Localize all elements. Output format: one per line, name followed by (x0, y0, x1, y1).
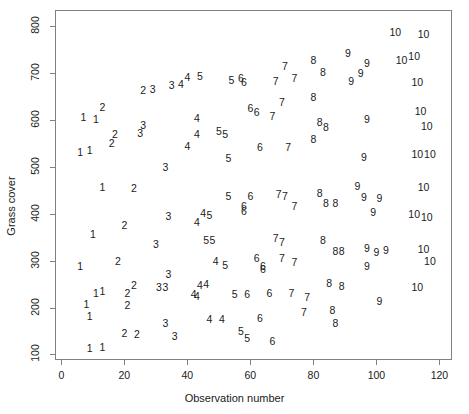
data-point-group-5-12: 5 (244, 333, 250, 344)
data-point-group-4-13: 4 (219, 314, 225, 325)
data-point-group-7-6: 7 (276, 188, 282, 199)
data-point-group-10-1: 10 (418, 29, 430, 40)
y-tick-label-text-0: 100 (29, 341, 41, 365)
data-point-group-3-11: 3 (172, 330, 178, 341)
y-tick-label-text-4: 500 (29, 154, 41, 178)
data-point-group-7-3: 7 (279, 97, 285, 108)
y-tick-label-text-5: 600 (29, 107, 41, 131)
x-tick-label-5: 100 (368, 369, 386, 381)
data-point-group-6-2: 6 (254, 107, 260, 118)
data-point-group-4-8: 4 (197, 280, 203, 291)
data-point-group-9-5: 9 (361, 152, 367, 163)
data-point-group-3-4: 3 (162, 162, 168, 173)
data-point-group-2-4: 2 (131, 182, 137, 193)
scatter-plot-figure: 1111111111111222222222222333333333333444… (0, 0, 469, 414)
data-point-group-7-2: 7 (292, 73, 298, 84)
data-point-group-4-2: 4 (194, 113, 200, 124)
data-point-group-10-5: 10 (415, 105, 427, 116)
y-tick-label-text-6: 700 (29, 60, 41, 84)
data-point-group-9-10: 9 (364, 243, 370, 254)
data-point-group-6-4: 6 (257, 142, 263, 153)
data-point-group-4-0: 4 (184, 72, 190, 83)
data-point-group-1-4: 1 (99, 182, 105, 193)
data-point-group-8-10: 8 (332, 246, 338, 257)
data-point-group-2-7: 2 (125, 287, 131, 298)
data-point-group-10-4: 10 (411, 76, 423, 87)
data-point-group-10-6: 10 (421, 121, 433, 132)
data-point-group-7-8: 7 (292, 201, 298, 212)
data-point-group-3-9: 3 (162, 282, 168, 293)
data-point-group-10-7: 10 (411, 149, 423, 160)
data-point-group-4-3: 4 (194, 128, 200, 139)
data-point-group-9-1: 9 (364, 58, 370, 69)
y-tick-label-text-3: 400 (29, 201, 41, 225)
data-point-group-10-2: 10 (408, 51, 420, 62)
data-point-group-4-1: 4 (178, 79, 184, 90)
data-point-group-8-9: 8 (320, 235, 326, 246)
y-tick-mark-6 (50, 73, 55, 74)
data-point-group-9-12: 9 (373, 247, 379, 258)
data-point-group-1-7: 1 (93, 287, 99, 298)
data-point-group-9-7: 9 (361, 192, 367, 203)
data-point-group-4-12: 4 (206, 314, 212, 325)
data-point-group-5-2: 5 (216, 126, 222, 137)
data-point-group-7-7: 7 (282, 191, 288, 202)
y-tick-mark-3 (50, 214, 55, 215)
y-tick-label-text-2: 300 (29, 248, 41, 272)
data-point-group-6-8: 6 (254, 253, 260, 264)
data-point-group-5-0: 5 (197, 71, 203, 82)
data-point-group-7-14: 7 (304, 292, 310, 303)
data-point-group-6-5: 6 (247, 191, 253, 202)
data-point-group-10-14: 10 (411, 282, 423, 293)
y-tick-label-4: 500 (23, 160, 47, 174)
x-tick-mark-5 (376, 360, 377, 365)
data-point-group-9-13: 9 (364, 261, 370, 272)
x-tick-label-1: 20 (118, 369, 130, 381)
data-point-group-8-1: 8 (320, 67, 326, 78)
data-point-group-4-5: 4 (200, 208, 206, 219)
x-tick-mark-3 (250, 360, 251, 365)
data-point-group-10-11: 10 (421, 212, 433, 223)
data-point-group-2-9: 2 (125, 300, 131, 311)
y-tick-label-text-7: 800 (29, 13, 41, 37)
data-point-group-8-14: 8 (329, 305, 335, 316)
y-tick-mark-4 (50, 167, 55, 168)
data-point-group-6-13: 6 (257, 313, 263, 324)
data-point-group-6-14: 6 (269, 336, 275, 347)
data-point-group-5-8: 5 (203, 235, 209, 246)
y-tick-label-text-1: 200 (29, 295, 41, 319)
data-point-group-6-1: 6 (247, 102, 253, 113)
data-point-group-6-11: 6 (244, 288, 250, 299)
x-tick-label-2: 40 (181, 369, 193, 381)
data-point-group-8-4: 8 (323, 122, 329, 133)
data-point-group-9-3: 9 (348, 75, 354, 86)
y-tick-label-2: 300 (23, 254, 47, 268)
x-axis-title: Observation number (0, 392, 469, 404)
y-tick-label-3: 400 (23, 207, 47, 221)
x-tick-label-4: 80 (308, 369, 320, 381)
data-point-group-1-12: 1 (99, 342, 105, 353)
data-point-group-5-7: 5 (210, 234, 216, 245)
data-point-group-8-12: 8 (326, 278, 332, 289)
data-point-group-7-0: 7 (282, 61, 288, 72)
data-point-group-3-7: 3 (165, 269, 171, 280)
data-point-group-9-6: 9 (355, 180, 361, 191)
data-point-group-2-6: 2 (115, 255, 121, 266)
data-point-group-9-14: 9 (377, 296, 383, 307)
data-point-group-7-15: 7 (301, 306, 307, 317)
data-point-group-4-4: 4 (184, 141, 190, 152)
data-point-group-2-1: 2 (140, 85, 146, 96)
y-axis-title-text: Grass cover (5, 166, 17, 246)
data-point-group-9-0: 9 (345, 47, 351, 58)
data-point-group-8-15: 8 (332, 317, 338, 328)
data-point-group-4-9: 4 (203, 278, 209, 289)
x-tick-mark-0 (61, 360, 62, 365)
data-point-group-1-3: 1 (87, 144, 93, 155)
x-tick-mark-4 (313, 360, 314, 365)
x-tick-label-3: 60 (244, 369, 256, 381)
data-point-group-8-2: 8 (310, 92, 316, 103)
data-point-group-8-5: 8 (310, 134, 316, 145)
data-point-group-10-8: 10 (424, 149, 436, 160)
data-point-group-1-8: 1 (99, 285, 105, 296)
data-point-group-8-7: 8 (323, 197, 329, 208)
